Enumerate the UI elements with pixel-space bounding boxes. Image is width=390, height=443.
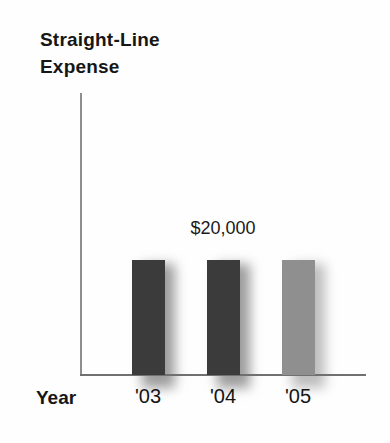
- y-axis-line: [80, 93, 82, 376]
- straight-line-expense-figure: Straight-Line Expense $20,000 '03'04'05 …: [0, 0, 390, 443]
- value-annotation: $20,000: [162, 218, 284, 239]
- chart-title: Straight-Line Expense: [40, 26, 160, 80]
- tick-label-03: '03: [113, 385, 183, 408]
- tick-label-04: '04: [188, 385, 258, 408]
- bar-03: [132, 260, 165, 375]
- bar-05: [282, 260, 315, 375]
- bar-04: [207, 260, 240, 375]
- tick-label-05: '05: [263, 385, 333, 408]
- chart-title-line-1: Straight-Line: [40, 26, 160, 53]
- x-axis-title: Year: [36, 387, 76, 409]
- chart-title-line-2: Expense: [40, 53, 160, 80]
